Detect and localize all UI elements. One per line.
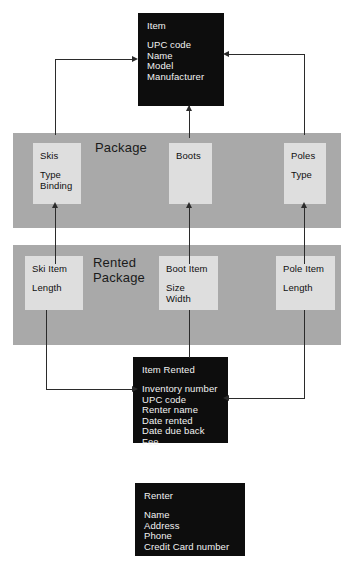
member-boot-item-title: Boot Item <box>166 263 212 274</box>
arrowhead-skis-to-item <box>132 56 138 62</box>
entity-item-title: Item <box>147 20 216 31</box>
arrowhead-poleitem-to-rented <box>223 395 229 401</box>
attribute: Inventory number <box>142 384 220 395</box>
connector-bootitem-to-boots-vertical <box>189 204 190 264</box>
arrowhead-skiitem-to-rented <box>132 386 138 392</box>
member-boot-item[interactable]: Boot Item Size Width <box>159 256 218 310</box>
arrowhead-skiitem-to-skis <box>52 202 58 208</box>
attribute: Binding <box>40 181 75 192</box>
attribute: Manufacturer <box>147 72 216 83</box>
connector-poles-to-item-horizontal <box>228 54 305 55</box>
band-package-label: Package <box>95 140 147 155</box>
member-ski-item[interactable]: Ski Item Length <box>25 256 83 310</box>
member-skis[interactable]: Skis Type Binding <box>33 143 81 204</box>
attribute: Type <box>40 170 75 181</box>
member-poles[interactable]: Poles Type <box>284 143 326 204</box>
entity-item-rented-attributes: Inventory number UPC code Renter name Da… <box>142 384 220 448</box>
diagram-canvas: Item UPC code Name Model Manufacturer Pa… <box>0 0 347 575</box>
connector-skiitem-to-rented-vertical <box>46 310 47 390</box>
member-pole-item-attributes: Length <box>283 283 329 294</box>
attribute: Length <box>32 283 77 294</box>
member-boots[interactable]: Boots <box>169 143 212 204</box>
attribute: Width <box>166 294 212 305</box>
member-boot-item-attributes: Size Width <box>166 283 212 304</box>
connector-skiitem-to-skis-vertical <box>55 204 56 264</box>
attribute: Credit Card number <box>144 542 237 553</box>
member-poles-attributes: Type <box>291 170 320 181</box>
connector-poleitem-to-rented-horizontal <box>228 398 305 399</box>
band-rented-package-label-line1: Rented <box>93 255 145 270</box>
entity-renter-title: Renter <box>144 490 237 501</box>
connector-poles-to-item-vertical <box>304 54 305 135</box>
attribute: Fee <box>142 437 220 448</box>
arrowhead-bootitem-to-boots <box>186 202 192 208</box>
arrowhead-poleitem-to-poles <box>301 202 307 208</box>
member-ski-item-attributes: Length <box>32 283 77 294</box>
arrowhead-poles-to-item <box>223 51 229 57</box>
connector-skis-to-item-horizontal <box>55 59 133 60</box>
attribute: Name <box>144 510 237 521</box>
band-rented-package-label-line2: Package <box>93 270 145 285</box>
entity-item-rented-title: Item Rented <box>142 364 220 375</box>
member-ski-item-title: Ski Item <box>32 263 77 274</box>
attribute: UPC code <box>147 40 216 51</box>
connector-skis-to-item-vertical <box>55 59 56 135</box>
entity-renter-attributes: Name Address Phone Credit Card number <box>144 510 237 552</box>
entity-item-attributes: UPC code Name Model Manufacturer <box>147 40 216 82</box>
member-pole-item[interactable]: Pole Item Length <box>276 256 335 310</box>
entity-item-rented[interactable]: Item Rented Inventory number UPC code Re… <box>133 357 228 443</box>
member-pole-item-title: Pole Item <box>283 263 329 274</box>
connector-bootitem-to-rented-vertical <box>189 310 190 358</box>
connector-poleitem-to-rented-vertical <box>304 310 305 399</box>
entity-renter[interactable]: Renter Name Address Phone Credit Card nu… <box>135 483 245 556</box>
connector-skiitem-to-rented-horizontal <box>46 389 133 390</box>
attribute: Type <box>291 170 320 181</box>
member-skis-title: Skis <box>40 150 75 161</box>
connector-poleitem-to-poles-vertical <box>304 204 305 264</box>
arrowhead-boots-to-item <box>186 105 192 111</box>
attribute: Size <box>166 283 212 294</box>
attribute: Length <box>283 283 329 294</box>
member-boots-title: Boots <box>176 150 206 161</box>
member-skis-attributes: Type Binding <box>40 170 75 191</box>
entity-item[interactable]: Item UPC code Name Model Manufacturer <box>138 13 224 106</box>
band-rented-package-label: Rented Package <box>93 255 145 285</box>
member-poles-title: Poles <box>291 150 320 161</box>
